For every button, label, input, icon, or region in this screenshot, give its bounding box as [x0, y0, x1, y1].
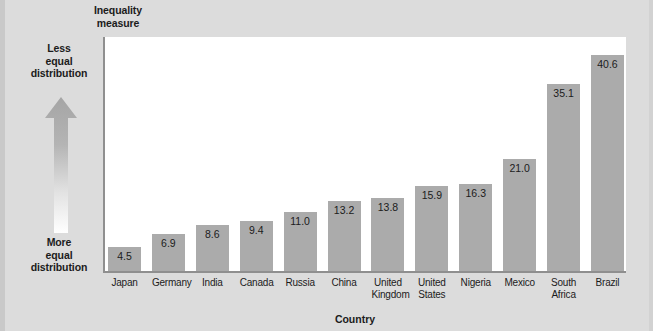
bar[interactable]: 13.8 — [371, 198, 404, 271]
x-axis-tick-label: Japan — [108, 277, 141, 300]
y-axis-title: Inequality measure — [70, 4, 166, 29]
bar[interactable]: 15.9 — [415, 186, 448, 271]
upward-arrow-icon — [43, 97, 79, 233]
tick-label-line1: Nigeria — [459, 277, 492, 289]
bar-value-label: 9.4 — [240, 224, 273, 236]
less-equal-distribution-label: Less equal distribution — [13, 42, 105, 80]
y-axis-title-line2: measure — [70, 17, 166, 30]
bar-slot: 15.9 — [415, 37, 448, 271]
x-axis-tick-label: UnitedStates — [415, 277, 448, 300]
bar[interactable]: 6.9 — [152, 234, 185, 271]
bar-value-label: 21.0 — [503, 162, 536, 174]
bar-slot: 8.6 — [196, 37, 229, 271]
bar-slot: 9.4 — [240, 37, 273, 271]
bar-slot: 13.2 — [328, 37, 361, 271]
x-axis-tick-label: Canada — [240, 277, 273, 300]
x-axis-title: Country — [300, 313, 410, 325]
bar-slot: 6.9 — [152, 37, 185, 271]
bar-value-label: 8.6 — [196, 228, 229, 240]
bar-slot: 40.6 — [591, 37, 624, 271]
bar-value-label: 15.9 — [415, 189, 448, 201]
bar-value-label: 11.0 — [284, 215, 317, 227]
x-axis-tick-label: Nigeria — [459, 277, 492, 300]
bar[interactable]: 13.2 — [328, 201, 361, 271]
bar-value-label: 6.9 — [152, 237, 185, 249]
less-equal-line1: Less — [13, 42, 105, 55]
bar-value-label: 35.1 — [547, 87, 580, 99]
less-equal-line2: equal — [13, 55, 105, 68]
x-axis-tick-label: India — [196, 277, 229, 300]
tick-label-line1: Canada — [240, 277, 273, 289]
tick-label-line1: China — [328, 277, 361, 289]
plot-frame: 4.56.98.69.411.013.213.815.916.321.035.1… — [103, 37, 626, 273]
tick-label-line1: United — [371, 277, 404, 289]
chart-figure: Inequality measure Less equal distributi… — [0, 0, 653, 331]
figure-right-edge — [649, 0, 653, 331]
x-axis-tick-label: Russia — [284, 277, 317, 300]
tick-label-line1: South — [547, 277, 580, 289]
bar-slot: 4.5 — [108, 37, 141, 271]
tick-label-line1: India — [196, 277, 229, 289]
bar[interactable]: 8.6 — [196, 225, 229, 271]
bar-slot: 13.8 — [371, 37, 404, 271]
x-axis-tick-label: Germany — [152, 277, 185, 300]
bar[interactable]: 40.6 — [591, 55, 624, 271]
tick-label-line1: Germany — [152, 277, 185, 289]
y-axis-title-line1: Inequality — [70, 4, 166, 17]
bar-value-label: 4.5 — [108, 250, 141, 262]
bar[interactable]: 11.0 — [284, 212, 317, 271]
bar[interactable]: 35.1 — [547, 84, 580, 271]
x-axis-tick-label: Mexico — [503, 277, 536, 300]
tick-label-line1: United — [415, 277, 448, 289]
bar[interactable]: 16.3 — [459, 184, 492, 271]
figure-left-edge — [0, 0, 5, 331]
bar-slot: 35.1 — [547, 37, 580, 271]
more-equal-distribution-label: More equal distribution — [13, 236, 105, 274]
tick-label-line1: Mexico — [503, 277, 536, 289]
y-axis-line — [103, 37, 105, 273]
bar-value-label: 16.3 — [459, 187, 492, 199]
x-axis-line — [103, 271, 626, 273]
tick-label-line2: Kingdom — [371, 289, 404, 301]
more-equal-line1: More — [13, 236, 105, 249]
bar-value-label: 13.8 — [371, 201, 404, 213]
x-axis-tick-label: UnitedKingdom — [371, 277, 404, 300]
bar[interactable]: 4.5 — [108, 247, 141, 271]
less-equal-line3: distribution — [13, 67, 105, 80]
tick-label-line1: Russia — [284, 277, 317, 289]
tick-label-line2: States — [415, 289, 448, 301]
bar[interactable]: 21.0 — [503, 159, 536, 271]
bar[interactable]: 9.4 — [240, 221, 273, 271]
bar-value-label: 40.6 — [591, 58, 624, 70]
tick-label-line1: Japan — [108, 277, 141, 289]
x-axis-tick-label: SouthAfrica — [547, 277, 580, 300]
x-axis-tick-label: Brazil — [591, 277, 624, 300]
bar-series: 4.56.98.69.411.013.213.815.916.321.035.1… — [108, 37, 624, 271]
more-equal-line3: distribution — [13, 261, 105, 274]
bar-slot: 16.3 — [459, 37, 492, 271]
bar-slot: 11.0 — [284, 37, 317, 271]
bar-slot: 21.0 — [503, 37, 536, 271]
more-equal-line2: equal — [13, 249, 105, 262]
tick-label-line1: Brazil — [591, 277, 624, 289]
x-axis-tick-label: China — [328, 277, 361, 300]
tick-label-line2: Africa — [547, 289, 580, 301]
bar-value-label: 13.2 — [328, 204, 361, 216]
x-axis-tick-labels: JapanGermanyIndiaCanadaRussiaChinaUnited… — [108, 277, 624, 300]
